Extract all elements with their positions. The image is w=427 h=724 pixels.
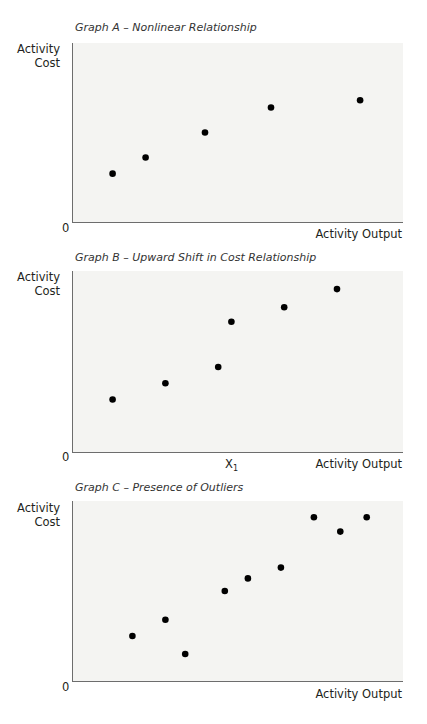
data-point xyxy=(363,514,370,521)
data-point xyxy=(129,633,136,640)
graph-c-x-label: Activity Output xyxy=(315,687,402,701)
data-point xyxy=(222,588,229,595)
graph-c-points xyxy=(73,501,403,681)
data-point xyxy=(182,651,189,658)
graph-c-y-label: ActivityCost xyxy=(0,501,60,529)
graph-c-origin-label: 0 xyxy=(62,680,69,694)
data-point xyxy=(245,575,252,582)
graph-c-title: Graph C – Presence of Outliers xyxy=(75,481,243,494)
graph-c-x-axis xyxy=(72,681,403,682)
graph-c: Graph C – Presence of Outliers ActivityC… xyxy=(0,0,427,724)
data-point xyxy=(311,514,318,521)
data-point xyxy=(162,617,169,624)
data-point xyxy=(337,528,344,535)
data-point xyxy=(278,564,285,571)
